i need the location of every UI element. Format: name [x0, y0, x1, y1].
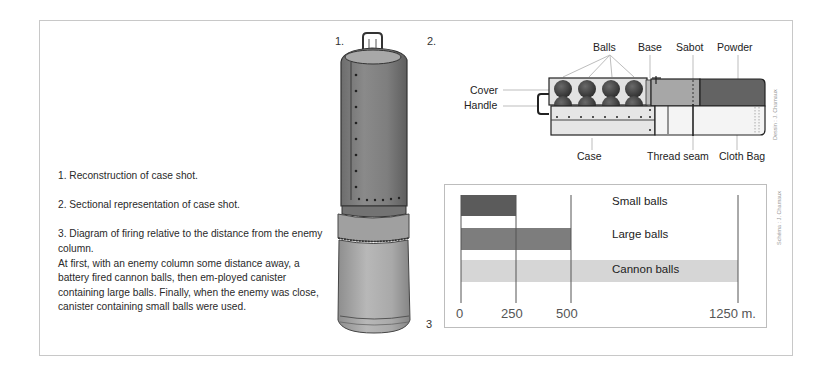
tick-0: 0 [456, 306, 463, 321]
tick-250: 250 [501, 306, 523, 321]
chart-credit: Schéma : J. Chamaux [776, 191, 782, 245]
bar-small-balls [461, 195, 516, 216]
bar-label-large-balls: Large balls [612, 228, 668, 240]
bar-label-small-balls: Small balls [612, 195, 668, 207]
tick-1250: 1250 m. [709, 306, 756, 321]
chart-graphics [0, 0, 831, 375]
bar-label-cannon-balls: Cannon balls [612, 263, 679, 275]
tick-500: 500 [556, 306, 578, 321]
bar-cannon-balls [461, 260, 738, 282]
